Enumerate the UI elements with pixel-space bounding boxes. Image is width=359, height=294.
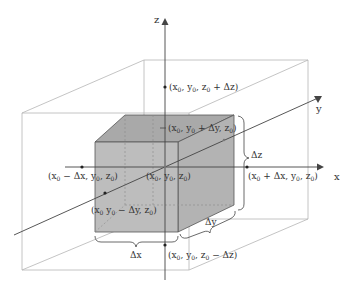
point-center (164, 166, 166, 168)
x-axis-label: x (334, 171, 340, 182)
point-z-minus (163, 243, 166, 246)
z-axis-label: z (154, 14, 159, 25)
label-dx: Δx (130, 250, 142, 260)
label-dy: Δy (205, 217, 217, 227)
label-z-minus: (x0, y0, z0 − Δz) (168, 250, 237, 261)
point-z-plus (163, 85, 166, 88)
point-y-plus (223, 139, 225, 141)
label-x-minus: (x0 − Δx, y0, z0) (48, 171, 118, 182)
z-axis-arrow-icon (162, 18, 169, 25)
x-axis-arrow-icon (317, 164, 324, 171)
y-axis-label: y (315, 103, 322, 114)
label-z-plus: (x0, y0, z0 + Δz) (169, 82, 238, 93)
cube-front-face (95, 142, 178, 232)
point-x-minus (80, 165, 83, 168)
label-dz: Δz (251, 150, 262, 160)
point-x-plus (245, 165, 248, 168)
label-x-plus: (x0 + Δx, y0, z0) (248, 171, 318, 182)
diagram-canvas: z x y (x0, y0, z0 + Δz) (x0, y0 + Δy, z0… (0, 0, 359, 294)
point-y-minus (103, 191, 106, 194)
